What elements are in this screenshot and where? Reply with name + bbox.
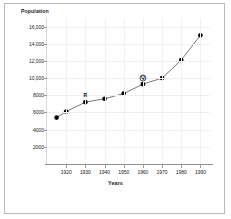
y-axis-title: Population [21,8,49,14]
y-axis-tick-label: 2000 [14,144,44,150]
x-axis-tick-label: 1970 [152,169,172,175]
gridline-vertical [143,18,144,164]
gridline-vertical [162,18,163,164]
y-axis-tick-label: 16,000 [14,24,44,30]
gridline-horizontal [47,130,210,131]
x-axis-title: Years [0,180,231,186]
gridline-horizontal [47,78,210,79]
x-axis-tick-label: 1930 [75,169,95,175]
x-axis-tick-mark [162,165,163,168]
gridline-vertical [124,18,125,164]
x-axis-tick-mark [143,165,144,168]
plot-area [47,18,210,164]
x-axis-tick-mark [124,165,125,168]
series-line [57,35,201,117]
gridline-vertical [105,18,106,164]
y-axis-tick-mark [44,147,47,148]
y-axis-tick-label: 4000 [14,127,44,133]
gridline-horizontal [47,27,210,28]
y-axis-tick-label: 10,000 [14,75,44,81]
y-axis-tick-mark [44,27,47,28]
y-axis-tick-mark [44,95,47,96]
y-axis-tick-label: 8000 [14,92,44,98]
chart-figure: Population Years 200040006000800010,0001… [0,0,231,219]
x-axis-tick-mark [105,165,106,168]
gridline-horizontal [47,112,210,113]
x-axis-tick-label: 1980 [171,169,191,175]
y-axis-tick-mark [44,112,47,113]
x-axis-tick-label: 1940 [95,169,115,175]
gridline-horizontal [47,147,210,148]
point-annotation-r: R [84,92,88,98]
gridline-vertical [181,18,182,164]
data-point-marker [54,115,59,120]
gridline-vertical [66,18,67,164]
x-axis-line [45,164,213,165]
y-axis-tick-label: 14,000 [14,41,44,47]
y-axis-tick-mark [44,78,47,79]
y-axis-tick-mark [44,44,47,45]
x-axis-tick-mark [181,165,182,168]
annotation-ring-q [139,74,146,81]
x-axis-tick-mark [200,165,201,168]
y-axis-tick-label: 6000 [14,109,44,115]
y-axis-tick-mark [44,130,47,131]
gridline-vertical [85,18,86,164]
x-axis-tick-label: 1920 [56,169,76,175]
x-axis-tick-label: 1960 [133,169,153,175]
gridline-horizontal [47,61,210,62]
y-axis-tick-label: 12,000 [14,58,44,64]
x-axis-tick-label: 1950 [114,169,134,175]
gridline-vertical [200,18,201,164]
gridline-horizontal [47,44,210,45]
x-axis-tick-mark [85,165,86,168]
y-axis-tick-mark [44,61,47,62]
x-axis-tick-label: 1990 [190,169,210,175]
population-line-series [47,18,210,164]
x-axis-tick-mark [66,165,67,168]
gridline-horizontal [47,95,210,96]
